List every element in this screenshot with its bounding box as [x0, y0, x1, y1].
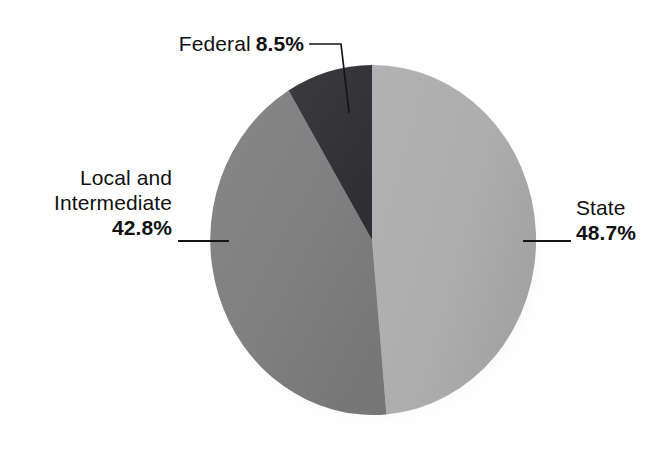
- slice-label-federal: Federal8.5%: [156, 32, 304, 57]
- slice-label-state-name: State: [576, 196, 672, 221]
- slice-label-state: State 48.7%: [576, 196, 672, 246]
- slice-label-local-and-intermediate: Local and Intermediate 42.8%: [12, 166, 172, 240]
- slice-label-state-percent: 48.7%: [576, 221, 672, 246]
- slice-label-local-line-2: Intermediate: [12, 191, 172, 216]
- slice-label-local-line-1: Local and: [12, 166, 172, 191]
- slice-label-federal-percent: 8.5%: [256, 32, 304, 55]
- slice-label-local-percent: 42.8%: [12, 216, 172, 241]
- slice-label-federal-name: Federal: [179, 32, 251, 55]
- pie-chart-figure: Federal8.5% Local and Intermediate 42.8%…: [0, 0, 672, 451]
